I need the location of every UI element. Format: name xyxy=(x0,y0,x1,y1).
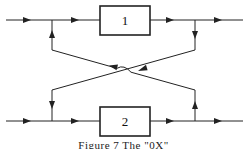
arrow-right-icon xyxy=(166,118,174,124)
cross-coupled-block-diagram: 1 2 xyxy=(0,0,247,149)
figure-caption: Figure 7 The "0X" xyxy=(0,139,247,149)
arrow-up-icon xyxy=(192,101,198,109)
arrow-right-icon xyxy=(71,118,79,124)
arrow-right-icon xyxy=(71,17,79,23)
arrow-right-icon xyxy=(214,17,222,23)
arrow-right-icon xyxy=(23,118,31,124)
arrow-down-icon xyxy=(192,31,198,39)
arrow-right-icon xyxy=(23,17,31,23)
arrow-diagonal-icon xyxy=(109,65,118,71)
arrow-right-icon xyxy=(166,17,174,23)
block-1-label: 1 xyxy=(122,13,129,28)
arrow-up-icon xyxy=(49,30,55,38)
block-2-label: 2 xyxy=(122,114,129,129)
arrow-down-icon xyxy=(49,101,55,109)
arrow-right-icon xyxy=(214,118,222,124)
